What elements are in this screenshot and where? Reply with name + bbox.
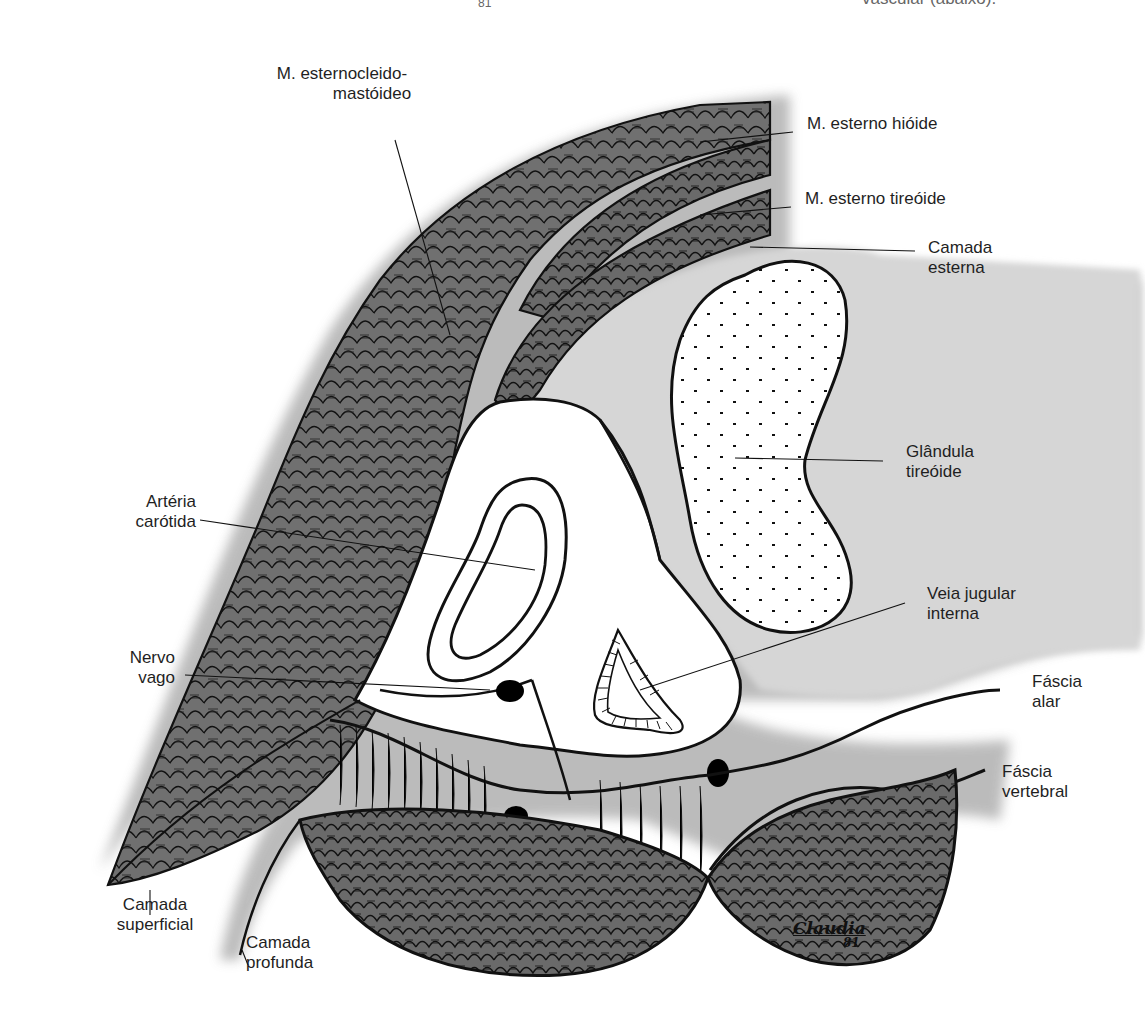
- label-line: mastóideo: [333, 84, 411, 103]
- label-line: Veia jugular: [927, 584, 1016, 603]
- label-deep-layer: Camada profunda: [246, 933, 313, 973]
- label-line: profunda: [246, 953, 313, 972]
- label-line: Camada: [928, 238, 992, 257]
- label-line: esterna: [928, 258, 985, 277]
- label-external-layer: Camada esterna: [928, 238, 992, 278]
- label-line: Nervo: [130, 648, 175, 667]
- label-vertebral-fascia: Fáscia vertebral: [1002, 762, 1068, 802]
- label-line: Glândula: [906, 442, 974, 461]
- signature-year: 81: [843, 936, 866, 950]
- label-sternocleidomastoid: M. esternocleido- mastóideo: [222, 64, 462, 104]
- label-vagus-nerve: Nervo vago: [100, 648, 175, 688]
- label-line: interna: [927, 604, 979, 623]
- label-line: Camada: [123, 895, 187, 914]
- label-line: Artéria: [146, 492, 196, 511]
- label-line: vertebral: [1002, 782, 1068, 801]
- label-sternothyroid: M. esterno tireóide: [805, 189, 946, 209]
- label-alar-fascia: Fáscia alar: [1032, 672, 1082, 712]
- label-line: Camada: [246, 933, 310, 952]
- label-sternohyoid: M. esterno hióide: [807, 114, 937, 134]
- label-line: tireóide: [906, 462, 962, 481]
- label-line: carótida: [136, 512, 196, 531]
- label-superficial-layer: Camada superficial: [100, 895, 210, 935]
- label-line: Fáscia: [1002, 762, 1052, 781]
- label-carotid-artery: Artéria carótida: [110, 492, 196, 532]
- label-line: Fáscia: [1032, 672, 1082, 691]
- label-line: alar: [1032, 692, 1060, 711]
- label-line: vago: [138, 668, 175, 687]
- label-internal-jugular-vein: Veia jugular interna: [927, 584, 1016, 624]
- vagus-nerve: [496, 680, 524, 702]
- prevertebral-muscle-left: [300, 809, 708, 975]
- signature-name: Claudia: [793, 918, 866, 938]
- artist-signature: Claudia 81: [793, 918, 866, 950]
- label-line: superficial: [117, 915, 194, 934]
- label-line: M. esternocleido-: [277, 64, 407, 83]
- label-thyroid-gland: Glândula tireóide: [906, 442, 974, 482]
